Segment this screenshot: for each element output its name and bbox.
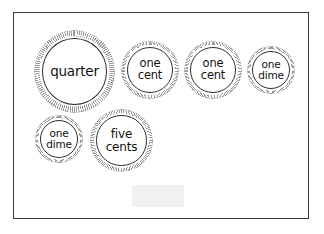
coin-inner-rim	[127, 47, 173, 93]
coin-nickel-1[interactable]: five cents	[90, 109, 153, 172]
coin-quarter[interactable]: quarter	[34, 30, 115, 113]
coin-dime-2[interactable]: one dime	[35, 115, 83, 163]
coin-inner-rim	[190, 47, 236, 93]
worksheet-page: quarterone centone centone dimeone dimef…	[13, 12, 309, 219]
coin-inner-rim	[96, 115, 146, 165]
coin-inner-rim	[40, 120, 78, 158]
coin-inner-rim	[252, 51, 290, 89]
coin-inner-rim	[42, 38, 107, 104]
coin-penny-1[interactable]: one cent	[121, 41, 179, 99]
blank-answer-box[interactable]	[132, 185, 184, 207]
coin-penny-2[interactable]: one cent	[184, 41, 242, 99]
coin-dime-1[interactable]: one dime	[247, 46, 295, 94]
